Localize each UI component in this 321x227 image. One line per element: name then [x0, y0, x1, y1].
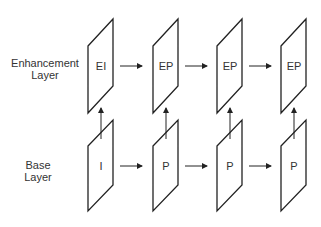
base-layer-label: Base Layer	[13, 159, 63, 183]
frame-label: P	[153, 160, 179, 172]
frame-label: I	[88, 160, 114, 172]
label-line: Enhancement	[10, 57, 80, 69]
label-line: Layer	[10, 69, 80, 81]
label-line: Layer	[13, 171, 63, 183]
frame-label: P	[281, 160, 307, 172]
label-line: Base	[13, 159, 63, 171]
frame-label: EI	[88, 60, 114, 72]
frame-label: EP	[217, 60, 243, 72]
frame-label: EP	[281, 60, 307, 72]
frame-label: EP	[153, 60, 179, 72]
enhancement-layer-label: Enhancement Layer	[10, 57, 80, 81]
frame-label: P	[217, 160, 243, 172]
diagram-canvas	[0, 0, 321, 227]
